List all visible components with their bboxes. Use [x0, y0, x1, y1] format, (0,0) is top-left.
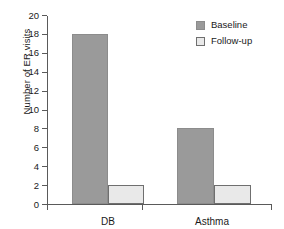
- y-axis-tick: 16: [42, 53, 47, 54]
- x-axis-tick: [142, 205, 143, 210]
- legend-item-follow-up[interactable]: Follow-up: [196, 34, 252, 48]
- bar-chart-figure: Number of ER visits 02468101214161820 DB…: [0, 0, 284, 229]
- y-axis-tick: 6: [42, 147, 47, 148]
- x-axis-line: [47, 204, 272, 205]
- y-axis-tick: 20: [42, 15, 47, 16]
- bar-db-follow-up: [108, 185, 144, 204]
- y-axis-line: [47, 16, 48, 205]
- y-axis-tick-label: 12: [28, 84, 39, 97]
- y-axis-tick-label: 6: [34, 141, 39, 154]
- y-axis-tick-label: 10: [28, 103, 39, 116]
- y-axis-tick: 4: [42, 166, 47, 167]
- followup-swatch-icon: [196, 37, 205, 46]
- legend-item-baseline[interactable]: Baseline: [196, 18, 252, 32]
- chart-legend: BaselineFollow-up: [196, 18, 252, 50]
- bar-asthma-follow-up: [214, 185, 251, 204]
- bar-asthma-baseline: [177, 128, 214, 204]
- y-axis-tick: 18: [42, 34, 47, 35]
- y-axis-tick-label: 18: [28, 27, 39, 40]
- y-axis-tick: 2: [42, 185, 47, 186]
- y-axis-tick: 14: [42, 72, 47, 73]
- legend-item-label: Baseline: [211, 19, 247, 31]
- y-axis-tick: 12: [42, 91, 47, 92]
- bar-db-baseline: [72, 34, 108, 204]
- x-axis-group-label-asthma: Asthma: [172, 216, 252, 227]
- y-axis-tick-label: 16: [28, 46, 39, 59]
- y-axis-tick-label: 4: [34, 160, 39, 173]
- x-axis-tick: [271, 205, 272, 210]
- y-axis-tick: 10: [42, 110, 47, 111]
- x-axis-tick: [47, 205, 48, 210]
- x-axis-group-label-db: DB: [68, 216, 148, 227]
- y-axis-tick-label: 2: [34, 179, 39, 192]
- legend-item-label: Follow-up: [211, 35, 252, 47]
- y-axis-tick: 8: [42, 128, 47, 129]
- y-axis-tick-label: 20: [28, 9, 39, 22]
- y-axis-tick-label: 8: [34, 122, 39, 135]
- baseline-swatch-icon: [196, 21, 205, 30]
- y-axis-tick-label: 14: [28, 65, 39, 78]
- y-axis-tick-label: 0: [34, 198, 39, 211]
